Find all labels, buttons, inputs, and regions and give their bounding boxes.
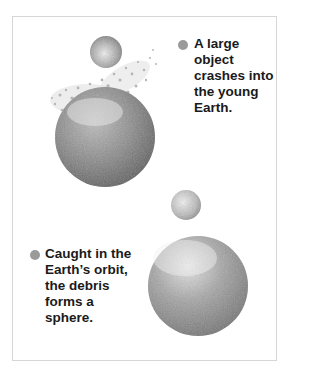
caption-line: A large (194, 36, 274, 52)
caption-line: Earth. (194, 100, 274, 116)
caption-line: crashes into (194, 68, 274, 84)
caption-line: forms a (45, 294, 131, 310)
step-2-bullet (30, 250, 40, 260)
step-1-bullet (178, 40, 188, 50)
caption-line: the young (194, 84, 274, 100)
caption-line: object (194, 52, 274, 68)
caption-line: Caught in the (45, 246, 131, 262)
caption-line: Earth’s orbit, (45, 262, 131, 278)
caption-line: the debris (45, 278, 131, 294)
caption-line: sphere. (45, 310, 131, 326)
step-1-caption: A large object crashes into the young Ea… (194, 36, 274, 116)
step-2-caption: Caught in the Earth’s orbit, the debris … (45, 246, 131, 326)
